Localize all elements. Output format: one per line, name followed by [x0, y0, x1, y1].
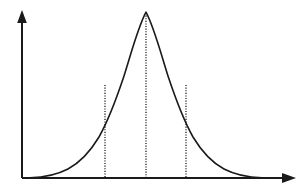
- bell-curve-chart: [0, 0, 306, 191]
- bell-curve-figure: [0, 0, 306, 191]
